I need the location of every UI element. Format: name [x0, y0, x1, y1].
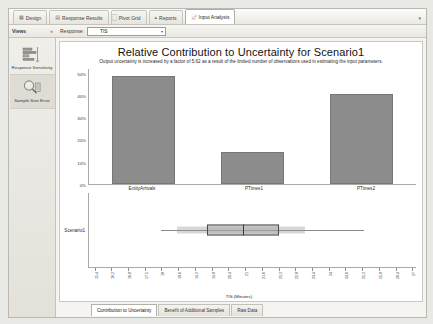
x-tick-label: 22.2 [279, 272, 283, 279]
magnifier-icon [21, 78, 43, 96]
contribution-bar-chart: 50% 40% 30% 20% 10% 0% [60, 67, 422, 185]
bar-chart-icon [21, 45, 43, 63]
sidebar-item-response-sensitivity[interactable]: Response Sensitivity [10, 42, 55, 74]
box-plot-axis-title: TIS (Minutes) [62, 294, 416, 299]
x-tick-label: 18.6 [178, 272, 182, 279]
box-plot-row: Scenario1 [62, 193, 416, 267]
ribbon-tab-response-results[interactable]: ▤ Response Results [49, 10, 108, 24]
ribbon-tab-label: Response Results [62, 15, 103, 21]
bar-column [308, 69, 416, 184]
sidebar-item-sample-size-error[interactable]: Sample Size Error [10, 74, 55, 108]
median-line [243, 225, 244, 236]
bottom-tab-label: Raw Data [237, 308, 257, 313]
bar-column [199, 69, 307, 184]
chart-icon: ▴ [155, 15, 158, 20]
chevron-down-icon: ▾ [161, 29, 163, 34]
box-plot-series-label: Scenario1 [62, 228, 88, 233]
bottom-tab-strip: Contribution to Uncertainty Benefit of A… [59, 304, 423, 317]
tab-benefit-of-additional-samples[interactable]: Benefit of Additional Samples [158, 304, 230, 316]
analysis-panel: Relative Contribution to Uncertainty for… [59, 41, 423, 302]
ribbon-tab-pivot-grid[interactable]: ⃞ Pivot Grid [111, 10, 147, 24]
x-tick-label: 15.4 [95, 272, 99, 279]
ribbon-tab-label: Reports [159, 15, 177, 21]
y-tick-label: 20% [77, 138, 86, 143]
sidebar-item-label: Response Sensitivity [11, 65, 53, 70]
x-tick-label: 20.4 [228, 272, 232, 279]
distribution-box-plot: Scenario1 15.4 16.2 16.8 17.5 [60, 191, 422, 301]
x-tick-label: 22.8 [295, 272, 299, 279]
ribbon-tab-reports[interactable]: ▴ Reports [149, 10, 183, 24]
x-tick-label: 16.8 [128, 272, 132, 279]
response-selected-value: TIS [90, 28, 108, 34]
x-tick-label: 21 [245, 272, 249, 276]
sidebar-item-label: Sample Size Error [11, 98, 53, 103]
chevron-down-icon[interactable]: ▾ [418, 15, 421, 21]
response-dropdown[interactable]: TIS ▾ [87, 27, 166, 36]
tab-raw-data[interactable]: Raw Data [231, 304, 263, 316]
ribbon-tab-label: Pivot Grid [119, 15, 141, 21]
box-plot-x-axis: 15.4 16.2 16.8 17.5 18 18.6 19.2 19.8 20… [88, 267, 416, 294]
chart-title: Relative Contribution to Uncertainty for… [60, 42, 422, 59]
views-label: Views [12, 28, 26, 34]
y-tick-label: 10% [77, 160, 86, 165]
main-body: Response Sensitivity Sample Size Error R… [9, 38, 426, 317]
bottom-tab-label: Benefit of Additional Samples [164, 308, 224, 313]
tab-contribution-to-uncertainty[interactable]: Contribution to Uncertainty [91, 304, 157, 316]
response-label: Response: [60, 28, 84, 34]
views-sidebar: Response Sensitivity Sample Size Error [9, 38, 56, 317]
x-tick-label: 17.5 [145, 272, 149, 279]
collapse-panel-icon[interactable]: « [50, 28, 53, 34]
box-plot-area [88, 193, 416, 267]
x-tick-label: 16.2 [111, 272, 115, 279]
bar-chart-plot-area [88, 69, 416, 185]
bar-ptimes1[interactable] [221, 152, 284, 184]
views-and-response-bar: Views « Response: TIS ▾ [9, 25, 426, 38]
y-tick-label: 40% [77, 93, 86, 98]
grid-icon: ▦ [19, 15, 24, 20]
x-tick-label: 19.2 [195, 272, 199, 279]
x-tick-label: 23.4 [312, 272, 316, 279]
x-tick-label: 18 [161, 272, 165, 276]
ribbon-tab-strip: ▦ Design ▤ Response Results ⃞ Pivot Grid… [9, 9, 426, 25]
chart-subtitle: Output uncertainty is increased by a fac… [60, 59, 422, 67]
bar-ptimes2[interactable] [330, 94, 393, 184]
ribbon-tab-input-analysis[interactable]: 📈 Input Analysis [185, 9, 236, 24]
response-selector: Response: TIS ▾ [56, 25, 166, 37]
x-tick-label: 25.2 [362, 272, 366, 279]
x-tick-label: 27 [412, 272, 416, 276]
y-tick-label: 50% [77, 71, 86, 76]
x-tick-label: 21.6 [262, 272, 266, 279]
bar-column [90, 69, 198, 184]
bottom-tab-label: Contribution to Uncertainty [97, 308, 151, 313]
analysis-icon: 📈 [191, 15, 197, 20]
ribbon-tab-label: Design [26, 15, 42, 21]
content-area: Relative Contribution to Uncertainty for… [56, 38, 426, 317]
ribbon-tab-design[interactable]: ▦ Design [13, 10, 47, 24]
x-tick-label: 24 [329, 272, 333, 276]
x-tick-label: 26.4 [396, 272, 400, 279]
bar-entityarrivals[interactable] [112, 76, 175, 184]
y-tick-label: 0% [80, 183, 86, 188]
bar-series [89, 69, 416, 184]
ribbon-tab-label: Input Analysis [199, 14, 230, 20]
views-panel-header: Views « [9, 25, 56, 37]
application-window: ▦ Design ▤ Response Results ⃞ Pivot Grid… [8, 8, 427, 318]
x-tick-label: 24.6 [345, 272, 349, 279]
x-tick-label: 19.8 [212, 272, 216, 279]
bar-chart-y-axis: 50% 40% 30% 20% 10% 0% [62, 69, 88, 185]
y-tick-label: 30% [77, 116, 86, 121]
x-tick-label: 25.8 [379, 272, 383, 279]
table-icon: ▤ [55, 15, 60, 20]
